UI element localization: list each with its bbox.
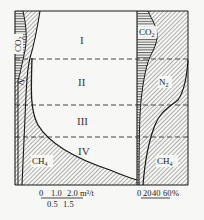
svg-text:%: % <box>172 188 179 198</box>
zone-label-1: I <box>80 34 84 46</box>
svg-text:1.5: 1.5 <box>63 199 74 209</box>
svg-text:0: 0 <box>39 188 43 198</box>
svg-text:40: 40 <box>152 188 161 198</box>
right-n2-label: N2 <box>158 76 172 88</box>
svg-text:1.0: 1.0 <box>51 188 62 198</box>
right-co2-label: CO2 <box>138 26 157 38</box>
zone-label-2: II <box>78 76 86 88</box>
right-ch4-label: CH4 <box>156 155 178 167</box>
left-co2-label: CO2 <box>13 34 24 54</box>
left-panel: CO2 N2 CH4 0 1.0 2.0 m³/t 0.5 1.5 <box>13 11 137 209</box>
svg-text:60: 60 <box>163 188 172 198</box>
svg-text:20: 20 <box>143 188 152 198</box>
left-ch4-label: CH4 <box>31 155 53 167</box>
svg-text:2.0: 2.0 <box>67 188 78 198</box>
gas-zonation-diagram: CO2 N2 CH4 0 1.0 2.0 m³/t 0.5 1.5 I II I… <box>0 0 204 220</box>
svg-text:0: 0 <box>137 188 141 198</box>
svg-text:m³/t: m³/t <box>80 188 95 198</box>
zone-label-3: III <box>77 115 88 127</box>
zone-label-4: IV <box>78 145 90 157</box>
svg-text:0.5: 0.5 <box>47 199 58 209</box>
left-axis: 0 1.0 2.0 m³/t 0.5 1.5 <box>39 188 95 209</box>
right-panel: CO2 N2 CH4 0 20 40 60 % <box>137 11 188 198</box>
right-axis: 0 20 40 60 % <box>137 188 179 198</box>
